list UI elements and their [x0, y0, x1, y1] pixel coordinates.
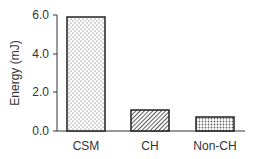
bar-csm	[67, 17, 105, 131]
bar-non-ch	[196, 117, 234, 131]
x-category-label: CH	[141, 139, 158, 153]
y-tick-label: 4.0	[32, 47, 49, 61]
y-tick-label: 2.0	[32, 85, 49, 99]
y-axis-title: Energy (mJ)	[8, 40, 22, 105]
y-tick-label: 6.0	[32, 8, 49, 22]
y-tick-label: 0.0	[32, 124, 49, 138]
bar-ch	[131, 110, 169, 131]
bar-chart: 6.0 4.0 2.0 0.0 Energy (mJ) CSM CH Non-C…	[0, 0, 261, 159]
x-category-label: Non-CH	[193, 139, 236, 153]
bars	[67, 17, 234, 131]
y-axis: 6.0 4.0 2.0 0.0 Energy (mJ)	[8, 8, 57, 138]
x-category-label: CSM	[73, 139, 100, 153]
